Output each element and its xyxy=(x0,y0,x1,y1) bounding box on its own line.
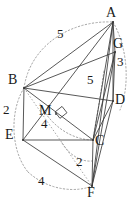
hidden-edge-B-F-hidden xyxy=(24,88,92,186)
vertex-point-A xyxy=(112,21,114,23)
measure-label-M-4: 4 xyxy=(41,117,48,130)
vertex-label-E: E xyxy=(5,128,14,142)
edge-B-E xyxy=(23,88,24,140)
vertex-label-F: F xyxy=(87,186,95,200)
vertex-label-A: A xyxy=(106,6,116,20)
vertex-point-C xyxy=(92,139,94,141)
vertex-point-B xyxy=(23,87,25,89)
vertex-label-D: D xyxy=(115,93,125,107)
construction-arcs xyxy=(14,22,126,190)
hidden-edges xyxy=(24,88,92,186)
vertex-point-G xyxy=(114,51,116,53)
edge-B-G xyxy=(24,52,115,88)
vertex-label-C: C xyxy=(95,134,104,148)
edge-B-C xyxy=(24,88,93,140)
vertex-point-M xyxy=(55,113,57,115)
vertex-point-E xyxy=(22,139,24,141)
construction-arc xyxy=(14,88,28,172)
edge-G-C xyxy=(93,52,115,140)
vertex-label-B: B xyxy=(8,73,17,87)
measure-label-EF-4: 4 xyxy=(38,174,45,187)
vertex-point-D xyxy=(112,100,114,102)
vertex-label-G: G xyxy=(113,37,123,51)
solid-edges xyxy=(23,22,115,186)
geometry-figure: AGBDMECF5532424 xyxy=(0,0,137,202)
measure-label-BE-2: 2 xyxy=(3,103,10,116)
edge-E-A xyxy=(23,22,113,140)
edge-A-F xyxy=(92,22,113,186)
measure-label-mid-5: 5 xyxy=(87,73,94,86)
measure-label-CF-2: 2 xyxy=(76,155,83,168)
measure-label-GD-3: 3 xyxy=(117,55,124,68)
measure-label-BA-5: 5 xyxy=(57,27,64,40)
